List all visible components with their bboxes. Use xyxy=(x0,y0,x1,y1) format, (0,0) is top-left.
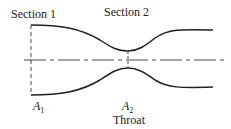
upper-wall xyxy=(31,25,213,51)
lower-wall xyxy=(31,68,213,95)
section2-label: Section 2 xyxy=(104,6,149,18)
throat-label: Throat xyxy=(113,114,145,126)
area1-label: A1 xyxy=(33,100,44,115)
section1-label: Section 1 xyxy=(11,8,56,20)
venturi-diagram: Section 1 Section 2 A1 A2 Throat xyxy=(0,0,231,129)
